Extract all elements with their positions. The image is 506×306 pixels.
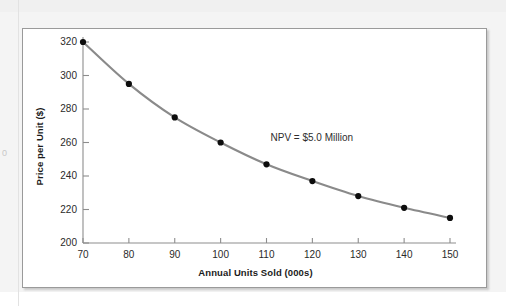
x-tick-label: 120 xyxy=(297,249,327,260)
x-tick-label: 130 xyxy=(343,249,373,260)
page-gutter-rule xyxy=(18,0,19,306)
x-tick-label: 80 xyxy=(114,249,144,260)
data-point-marker xyxy=(126,81,132,87)
data-point-marker xyxy=(80,39,86,45)
x-tick-label: 100 xyxy=(206,249,236,260)
x-tick-label: 90 xyxy=(160,249,190,260)
data-series-line xyxy=(83,42,450,218)
data-point-marker xyxy=(172,114,178,120)
axis-group xyxy=(83,37,456,243)
y-tick-label: 240 xyxy=(51,170,77,181)
y-tick-label: 320 xyxy=(51,36,77,47)
x-tick-label: 150 xyxy=(435,249,465,260)
page-edge-artifact: 0 xyxy=(2,148,11,158)
x-tick-label: 70 xyxy=(68,249,98,260)
data-point-marker xyxy=(401,205,407,211)
y-tick-label: 260 xyxy=(51,137,77,148)
x-tick-marks xyxy=(83,238,450,243)
data-point-markers xyxy=(80,39,453,221)
y-tick-marks xyxy=(83,42,89,243)
data-point-marker xyxy=(263,161,269,167)
data-point-marker xyxy=(309,178,315,184)
y-tick-label: 280 xyxy=(51,103,77,114)
y-tick-label: 300 xyxy=(51,70,77,81)
chart-plot-area: Price per Unit ($) Annual Units Sold (00… xyxy=(23,29,488,289)
x-tick-label: 110 xyxy=(252,249,282,260)
data-point-marker xyxy=(355,193,361,199)
data-point-marker xyxy=(447,215,453,221)
x-tick-label: 140 xyxy=(389,249,419,260)
figure-panel: Price per Unit ($) Annual Units Sold (00… xyxy=(22,28,487,288)
y-tick-label: 200 xyxy=(51,237,77,248)
y-tick-label: 220 xyxy=(51,204,77,215)
data-point-marker xyxy=(218,139,224,145)
